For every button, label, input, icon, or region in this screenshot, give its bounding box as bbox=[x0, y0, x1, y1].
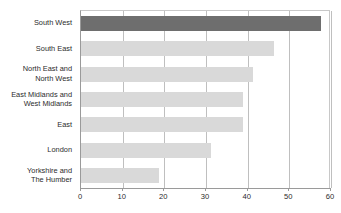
bar[interactable] bbox=[81, 117, 243, 132]
category-label-line: East bbox=[57, 120, 72, 129]
x-tick-label: 20 bbox=[159, 192, 167, 201]
category-label-line: Yorkshire and bbox=[27, 166, 72, 175]
bar-chart: South WestSouth EastNorth East andNorth … bbox=[0, 0, 341, 213]
x-tick-label: 10 bbox=[117, 192, 125, 201]
category-label-line: The Humber bbox=[31, 175, 72, 184]
bars-layer bbox=[81, 11, 329, 188]
category-label: South West bbox=[0, 10, 76, 35]
category-label: South East bbox=[0, 35, 76, 60]
bar-slot bbox=[81, 36, 329, 61]
bar-slot bbox=[81, 11, 329, 36]
x-tick-label: 30 bbox=[201, 192, 209, 201]
category-label-line: North West bbox=[35, 74, 72, 83]
gridline bbox=[331, 11, 332, 188]
tick-mark bbox=[330, 188, 331, 191]
bar[interactable] bbox=[81, 143, 211, 158]
bar-slot bbox=[81, 62, 329, 87]
category-label: Yorkshire andThe Humber bbox=[0, 163, 76, 188]
bar-slot bbox=[81, 112, 329, 137]
x-tick-label: 40 bbox=[242, 192, 250, 201]
x-tick-label: 50 bbox=[284, 192, 292, 201]
category-axis-labels: South WestSouth EastNorth East andNorth … bbox=[0, 10, 76, 188]
bar[interactable] bbox=[81, 67, 253, 82]
bar-slot bbox=[81, 87, 329, 112]
x-tick-label: 0 bbox=[78, 192, 82, 201]
category-label: East Midlands andWest Midlands bbox=[0, 86, 76, 111]
x-axis-ticks: 0102030405060 bbox=[80, 188, 331, 212]
category-label-line: North East and bbox=[23, 64, 72, 73]
plot-area bbox=[80, 10, 330, 188]
bar[interactable] bbox=[81, 168, 159, 183]
tick-mark bbox=[288, 188, 289, 191]
category-label-line: West Midlands bbox=[24, 99, 72, 108]
tick-mark bbox=[205, 188, 206, 191]
tick-mark bbox=[247, 188, 248, 191]
tick-mark bbox=[80, 188, 81, 191]
bar-slot bbox=[81, 137, 329, 162]
category-label-line: South West bbox=[34, 18, 72, 27]
tick-mark bbox=[122, 188, 123, 191]
bar-slot bbox=[81, 163, 329, 188]
bar[interactable] bbox=[81, 92, 243, 107]
tick-mark bbox=[163, 188, 164, 191]
bar-highlighted[interactable] bbox=[81, 16, 321, 31]
category-label-line: East Midlands and bbox=[11, 90, 72, 99]
category-label: North East andNorth West bbox=[0, 61, 76, 86]
category-label: East bbox=[0, 112, 76, 137]
category-label: London bbox=[0, 137, 76, 162]
bar[interactable] bbox=[81, 41, 274, 56]
category-label-line: London bbox=[47, 145, 72, 154]
category-label-line: South East bbox=[36, 44, 72, 53]
x-tick-label: 60 bbox=[326, 192, 334, 201]
